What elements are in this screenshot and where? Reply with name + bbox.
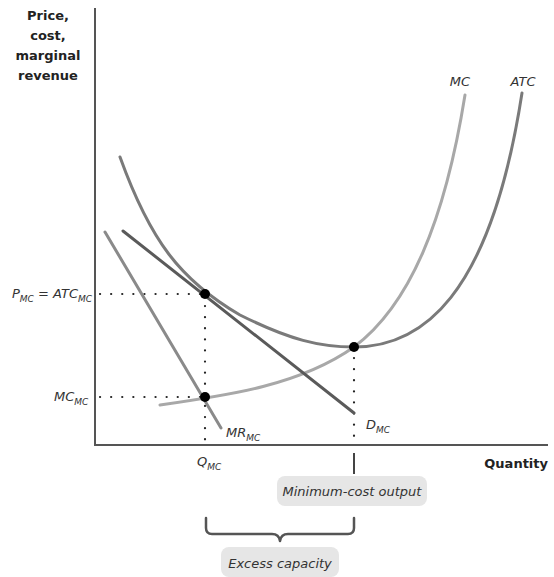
y-title-line-2: cost, xyxy=(30,28,66,43)
excess-capacity-label: Excess capacity xyxy=(228,556,332,571)
y-tick-mc-label: MCMC xyxy=(54,389,89,407)
x-tick-qmc-label: QMC xyxy=(197,454,222,472)
mc-curve xyxy=(160,95,465,405)
monopolistic-competition-chart: Price, cost, marginal revenue MC ATC DMC… xyxy=(0,0,554,577)
mr-label: MRMC xyxy=(226,425,261,443)
min-cost-output-annotation: Minimum-cost output xyxy=(277,476,427,506)
y-tick-price-label: PMC = ATCMC xyxy=(12,286,93,304)
excess-capacity-brace xyxy=(206,518,354,541)
y-title-line-4: revenue xyxy=(18,68,78,83)
mc-label: MC xyxy=(450,74,471,89)
y-axis-title: Price, cost, marginal revenue xyxy=(16,8,81,83)
y-title-line-1: Price, xyxy=(27,8,69,23)
atc-curve xyxy=(120,93,522,347)
x-axis-title: Quantity xyxy=(484,456,548,471)
excess-capacity-annotation: Excess capacity xyxy=(221,547,339,577)
y-title-line-3: marginal xyxy=(16,48,81,63)
tangency-point xyxy=(200,289,210,299)
min-cost-output-label: Minimum-cost output xyxy=(283,484,423,499)
atc-label: ATC xyxy=(510,74,537,89)
mr-mc-intersection-point xyxy=(200,392,210,402)
demand-label: DMC xyxy=(366,417,391,435)
min-atc-point xyxy=(349,342,359,352)
